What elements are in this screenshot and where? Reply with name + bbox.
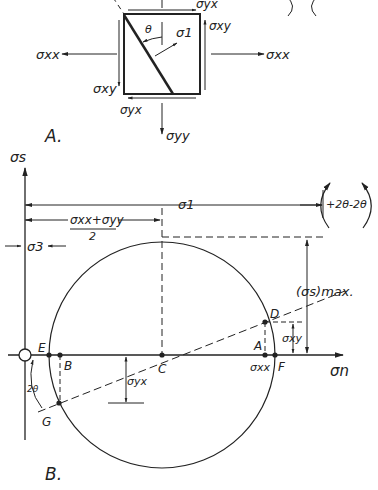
panel-a-labels: σyx σxy θ σ1 σxx σxx σxy σyx σyy A. bbox=[36, 0, 290, 146]
origin-marker bbox=[19, 349, 31, 361]
label-smax: (σs)max. bbox=[296, 284, 354, 299]
label-point-e: E bbox=[38, 341, 46, 355]
label-rotation-pos: +2θ bbox=[326, 198, 349, 211]
label-sxy-dim: σxy bbox=[282, 332, 302, 345]
label-syx-bottom: σyx bbox=[120, 103, 143, 117]
label-two-theta: 2θ bbox=[27, 384, 39, 394]
point-d bbox=[262, 319, 267, 324]
label-sxy-left: σxy bbox=[93, 81, 117, 96]
panel-b-labels: σs σn σ1 σxx+σyy 2 σ3 +2θ -2θ (σs)max. D… bbox=[10, 149, 367, 484]
label-sigma-n-axis: σn bbox=[330, 362, 349, 380]
plane-extension-line bbox=[108, 0, 124, 14]
panel-a-label: A. bbox=[44, 126, 62, 146]
label-point-b: B bbox=[64, 359, 72, 373]
point-b bbox=[57, 352, 62, 357]
rotation-arc-partial-left bbox=[286, 0, 293, 16]
label-sigma1-dim: σ1 bbox=[178, 197, 195, 212]
label-sxx-right: σxx bbox=[266, 47, 290, 62]
label-syx-top: σyx bbox=[196, 0, 219, 11]
theta-arc bbox=[143, 37, 162, 42]
label-syx-dim: σyx bbox=[127, 375, 147, 388]
point-e bbox=[46, 352, 51, 357]
label-sxx-left: σxx bbox=[36, 47, 60, 62]
point-f bbox=[272, 352, 277, 357]
label-sxx-b: σxx bbox=[250, 361, 270, 374]
label-sigma-s-axis: σs bbox=[10, 149, 26, 165]
diameter-dg-dashed bbox=[38, 291, 345, 412]
panel-b-diagram bbox=[5, 168, 371, 468]
label-rotation-neg: -2θ bbox=[349, 198, 367, 211]
label-sigma1-a: σ1 bbox=[176, 25, 193, 40]
mohr-circle-figure: σyx σxy θ σ1 σxx σxx σxy σyx σyy A. bbox=[0, 0, 378, 490]
label-point-f: F bbox=[278, 360, 286, 374]
panel-a-element bbox=[62, 0, 318, 134]
label-mean-denominator: 2 bbox=[89, 230, 96, 243]
label-mean-numerator: σxx+σyy bbox=[70, 213, 125, 227]
label-point-d: D bbox=[270, 307, 279, 321]
label-syy: σyy bbox=[166, 128, 190, 143]
point-c bbox=[159, 352, 164, 357]
point-a bbox=[262, 352, 267, 357]
sigma1-normal-arrow bbox=[155, 43, 177, 56]
rotation-arc-partial-right bbox=[311, 0, 318, 16]
panel-b-label: B. bbox=[45, 464, 62, 484]
label-point-c: C bbox=[158, 362, 167, 376]
point-g bbox=[56, 400, 61, 405]
label-sigma3: σ3 bbox=[27, 239, 44, 254]
label-point-g: G bbox=[42, 415, 51, 429]
label-point-a: A bbox=[253, 339, 262, 353]
label-sxy-right: σxy bbox=[209, 19, 232, 33]
label-theta: θ bbox=[145, 23, 152, 36]
